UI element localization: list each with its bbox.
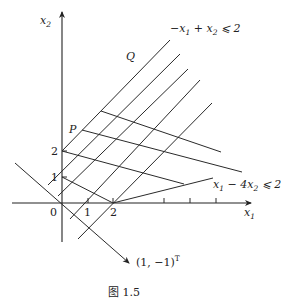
point-label-p: P [68, 123, 77, 136]
point-label-q: Q [126, 50, 135, 63]
constraint-label-lower: x1 − 4x2 ⩽ 2 [213, 178, 281, 193]
constraint-line-lower [113, 178, 213, 203]
figure-caption: 图 1.5 [108, 286, 140, 299]
y-tick-label-1: 1 [51, 171, 58, 184]
lp-feasible-region-diagram: x2 x1 0 1 2 1 2 P Q −x1 + x2 ⩽ 2 x1 − 4x… [0, 0, 281, 306]
origin-label: 0 [50, 206, 57, 219]
parallel-lines-slope-one [48, 40, 212, 239]
x-tick-label-1: 1 [84, 206, 91, 219]
x-tick-label-2: 2 [110, 206, 117, 219]
x1-axis-label: x1 [244, 206, 255, 221]
constraint-line-upper [62, 40, 170, 151]
y-axis-ticks [62, 151, 67, 177]
direction-vector-label: (1, −1)T [136, 254, 180, 269]
constraint-label-upper: −x1 + x2 ⩽ 2 [170, 22, 240, 37]
x2-axis-label: x2 [40, 14, 51, 29]
y-tick-label-2: 2 [51, 145, 58, 158]
